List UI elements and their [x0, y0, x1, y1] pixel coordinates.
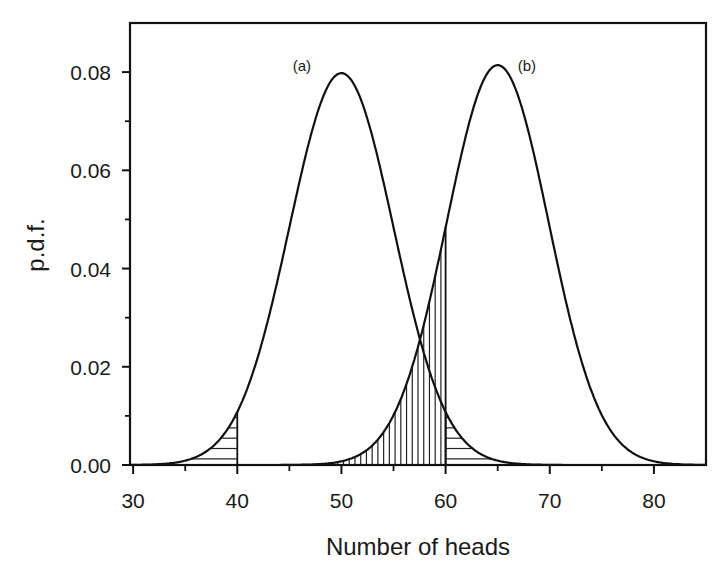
pdf-chart: 304050607080 0.000.020.040.060.08 (a)(b)… [0, 0, 721, 584]
x-tick-label: 30 [121, 489, 144, 512]
x-tick-label: 70 [538, 489, 561, 512]
y-tick-label: 0.08 [70, 61, 111, 84]
curve-label-a: (a) [293, 57, 311, 74]
y-tick-label: 0.02 [70, 356, 111, 379]
y-tick-label: 0.00 [70, 454, 111, 477]
x-axis: 304050607080 [121, 465, 665, 512]
shaded-region [338, 227, 446, 465]
y-tick-label: 0.06 [70, 159, 111, 182]
x-tick-label: 60 [434, 489, 457, 512]
y-axis-title: p.d.f. [22, 218, 49, 271]
y-axis: 0.000.020.040.060.08 [70, 61, 130, 477]
x-tick-label: 40 [226, 489, 249, 512]
y-tick-label: 0.04 [70, 258, 111, 281]
curve-label-b: (b) [518, 57, 536, 74]
shaded-regions [191, 227, 491, 465]
x-axis-title: Number of heads [326, 533, 510, 560]
x-tick-label: 50 [330, 489, 353, 512]
x-tick-label: 80 [642, 489, 665, 512]
